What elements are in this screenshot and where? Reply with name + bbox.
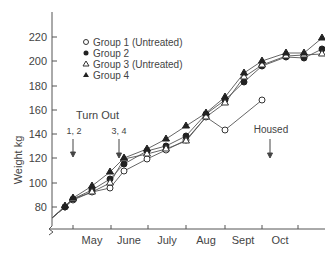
housed-label: Housed bbox=[254, 124, 288, 135]
svg-text:180: 180 bbox=[29, 80, 47, 92]
chart: 220 200 180 160 140 120 100 80 Weight kg… bbox=[0, 0, 325, 257]
svg-text:May: May bbox=[82, 234, 103, 246]
svg-text:June: June bbox=[117, 234, 141, 246]
svg-text:220: 220 bbox=[29, 31, 47, 43]
arrow-label-groups-1-2: 1, 2 bbox=[66, 126, 81, 136]
svg-text:140: 140 bbox=[29, 128, 47, 140]
annotation-arrows bbox=[71, 139, 273, 158]
legend-group-4: Group 4 bbox=[93, 70, 130, 81]
legend-group-3: Group 3 (Untreated) bbox=[93, 59, 183, 70]
svg-text:100: 100 bbox=[29, 177, 47, 189]
y-axis-label: Weight kg bbox=[12, 136, 24, 185]
svg-text:Aug: Aug bbox=[196, 234, 216, 246]
y-tick-labels: 220 200 180 160 140 120 100 80 bbox=[29, 31, 47, 213]
axis-break bbox=[49, 226, 53, 235]
svg-text:200: 200 bbox=[29, 55, 47, 67]
svg-text:160: 160 bbox=[29, 104, 47, 116]
x-month-labels: May June July Aug Sept Oct bbox=[82, 234, 289, 246]
legend-group-1: Group 1 (Untreated) bbox=[93, 37, 183, 48]
svg-text:80: 80 bbox=[35, 201, 47, 213]
svg-text:Sept: Sept bbox=[232, 234, 255, 246]
svg-text:July: July bbox=[157, 234, 177, 246]
svg-text:Oct: Oct bbox=[271, 234, 288, 246]
legend: Group 1 (Untreated) Group 2 Group 3 (Unt… bbox=[83, 37, 183, 81]
arrow-label-groups-3-4: 3, 4 bbox=[111, 126, 126, 136]
chart-svg: 220 200 180 160 140 120 100 80 Weight kg… bbox=[0, 0, 325, 257]
legend-group-2: Group 2 bbox=[93, 48, 130, 59]
turn-out-label: Turn Out bbox=[76, 109, 119, 121]
svg-text:120: 120 bbox=[29, 152, 47, 164]
